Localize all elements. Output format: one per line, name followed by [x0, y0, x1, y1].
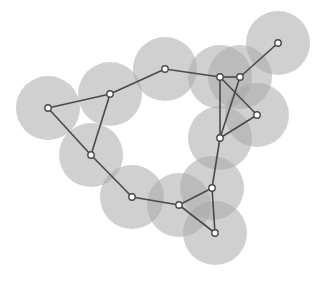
coverage-circles-layer	[16, 11, 310, 265]
node-n2	[107, 91, 113, 97]
node-n5	[237, 74, 243, 80]
node-n12	[209, 185, 215, 191]
node-n13	[212, 230, 218, 236]
node-n3	[162, 66, 168, 72]
node-n9	[88, 152, 94, 158]
node-n4	[217, 74, 223, 80]
node-n11	[176, 202, 182, 208]
node-n1	[45, 105, 51, 111]
node-n10	[129, 194, 135, 200]
node-n7	[254, 112, 260, 118]
node-n6	[275, 40, 281, 46]
node-n8	[217, 135, 223, 141]
network-diagram	[0, 0, 331, 285]
